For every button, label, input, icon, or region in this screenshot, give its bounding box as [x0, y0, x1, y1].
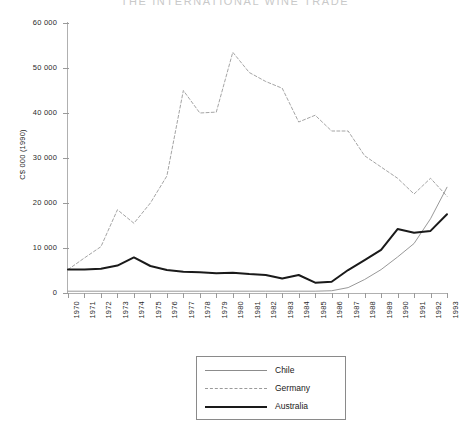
chart-root: THE INTERNATIONAL WINE TRADE C$ 000 (199…: [0, 0, 470, 440]
legend-item-chile[interactable]: Chile: [197, 361, 345, 379]
legend-label-germany: Germany: [275, 383, 310, 393]
legend-swatch-chile: [205, 364, 267, 376]
series-lines: [0, 0, 470, 340]
legend-line-germany: [205, 388, 267, 389]
plot-area: C$ 000 (1990) 010 00020 00030 00040 0005…: [0, 0, 470, 340]
legend-item-australia[interactable]: Australia: [197, 397, 345, 415]
series-line-australia: [68, 214, 447, 282]
legend-swatch-australia: [205, 400, 267, 412]
legend-item-germany[interactable]: Germany: [197, 379, 345, 397]
legend-line-chile: [205, 370, 267, 371]
legend-label-australia: Australia: [275, 401, 308, 411]
legend-label-chile: Chile: [275, 365, 294, 375]
legend: Chile Germany Australia: [196, 356, 346, 420]
legend-line-australia: [205, 406, 267, 408]
legend-swatch-germany: [205, 382, 267, 394]
